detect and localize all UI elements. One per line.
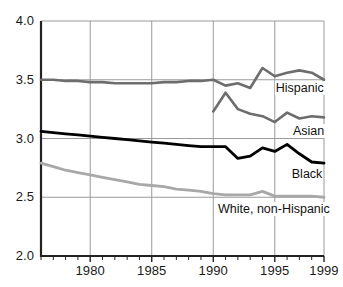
series-annotation-asian: Asian <box>292 124 325 138</box>
series-line-white-non-hispanic <box>41 163 324 197</box>
series-annotation-hispanic: Hispanic <box>275 81 325 95</box>
y-axis-tick-label: 4.0 <box>0 13 34 28</box>
series-annotation-white-non-hispanic: White, non-Hispanic <box>217 202 331 216</box>
series-line-black <box>41 131 324 163</box>
y-axis-tick-label: 2.5 <box>0 189 34 204</box>
y-axis-tick-label: 3.5 <box>0 72 34 87</box>
x-axis-tick-label: 1985 <box>129 263 175 278</box>
y-axis-tick-label: 3.0 <box>0 131 34 146</box>
x-axis-tick-label: 1999 <box>301 263 343 278</box>
y-axis-tick-label: 2.0 <box>0 248 34 263</box>
x-axis-tick-label: 1980 <box>67 263 113 278</box>
x-axis-tick-label: 1990 <box>190 263 236 278</box>
series-line-asian <box>213 93 324 122</box>
series-annotation-black: Black <box>291 167 324 181</box>
x-axis-tick-label: 1995 <box>252 263 298 278</box>
